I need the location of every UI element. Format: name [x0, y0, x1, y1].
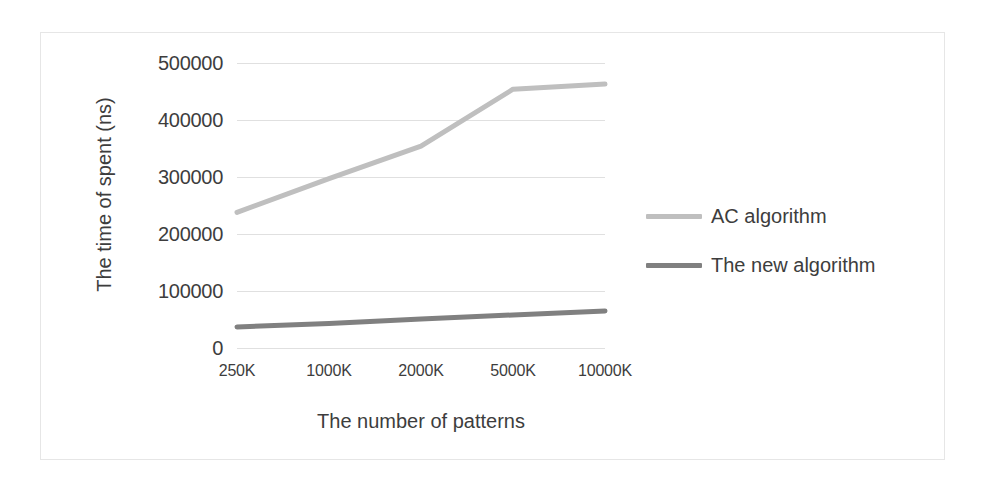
legend-label-new-algorithm: The new algorithm	[711, 254, 876, 277]
y-axis-tick-label: 0	[212, 337, 223, 360]
y-axis-tick-label: 100000	[158, 280, 223, 303]
series-lines	[237, 63, 605, 348]
plot-area: 0100000200000300000400000500000 250K1000…	[237, 63, 605, 348]
legend-entry-ac-algorithm[interactable]: AC algorithm	[646, 205, 876, 228]
legend-swatch-new-algorithm	[646, 263, 702, 268]
x-axis-tick-label: 1000K	[306, 362, 351, 380]
x-axis-title: The number of patterns	[237, 410, 605, 433]
legend-swatch-ac-algorithm	[646, 214, 702, 219]
y-axis-tick-label: 300000	[158, 166, 223, 189]
x-axis-tick-label: 5000K	[490, 362, 535, 380]
chart-legend: AC algorithm The new algorithm	[646, 205, 876, 277]
legend-entry-new-algorithm[interactable]: The new algorithm	[646, 254, 876, 277]
x-axis-tick-label: 2000K	[398, 362, 443, 380]
series-line	[237, 311, 605, 327]
x-axis-tick-label: 250K	[219, 362, 256, 380]
y-axis-tick-label: 500000	[158, 52, 223, 75]
y-axis-title: The time of spent (ns)	[93, 97, 116, 292]
gridline	[237, 348, 605, 349]
y-axis-tick-label: 200000	[158, 223, 223, 246]
x-axis-tick-label: 10000K	[578, 362, 632, 380]
chart-frame: 0100000200000300000400000500000 250K1000…	[40, 32, 945, 460]
y-axis-tick-label: 400000	[158, 109, 223, 132]
legend-label-ac-algorithm: AC algorithm	[711, 205, 827, 228]
series-line	[237, 84, 605, 212]
